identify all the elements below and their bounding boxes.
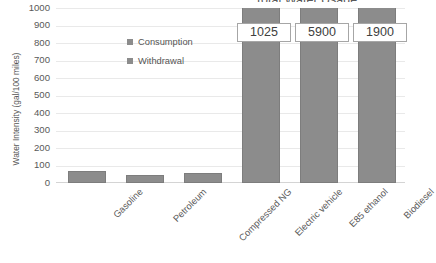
y-tick-label-800: 800 [10,38,50,48]
legend-item-withdrawal[interactable]: Withdrawal [127,55,193,66]
data-label-electric-vehicle: 1025 [237,23,291,42]
gridline-600 [56,78,405,79]
y-tick-label-400: 400 [10,108,50,118]
gridline-700 [56,61,405,62]
y-tick-label-600: 600 [10,73,50,83]
x-label-biodiesel: Biodiesel [401,186,436,221]
y-tick-label-500: 500 [10,90,50,100]
legend-label-consumption: Consumption [138,37,193,47]
x-label-electric-vehicle: Electric vehicle [292,186,344,238]
y-tick-label-0: 0 [10,178,50,188]
gridline-100 [56,166,405,167]
gridline-1000 [56,8,405,9]
legend-item-consumption[interactable]: Consumption [127,36,193,47]
bar-petroleum[interactable] [126,175,164,183]
x-label-e85-ethanol: E85 ethanol [347,186,390,229]
legend-swatch-icon [127,58,133,64]
legend-swatch-icon [127,39,133,45]
y-tick-label-900: 900 [10,20,50,30]
x-axis-line [56,182,405,183]
x-label-compressed-ng: Compressed NG [236,186,293,243]
chart-title: Total Water Usage [216,0,396,2]
data-label-biodiesel: 1900 [353,23,407,42]
x-axis-labels: Gasoline Petroleum Compressed NG Electri… [56,186,405,263]
gridline-500 [56,96,405,97]
x-label-gasoline: Gasoline [111,186,145,220]
y-tick-label-300: 300 [10,125,50,135]
y-tick-label-100: 100 [10,160,50,170]
gridline-300 [56,131,405,132]
y-tick-label-200: 200 [10,143,50,153]
bar-gasoline[interactable] [68,171,106,183]
data-label-e85-ethanol: 5900 [295,23,349,42]
y-tick-label-700: 700 [10,55,50,65]
gridline-400 [56,113,405,114]
legend-label-withdrawal: Withdrawal [138,56,184,66]
bar-compressed-ng[interactable] [184,173,222,184]
gridline-800 [56,43,405,44]
y-tick-label-1000: 1000 [10,3,50,13]
gridline-200 [56,148,405,149]
chart-legend: Consumption Withdrawal [127,36,193,74]
x-label-petroleum: Petroleum [171,186,209,224]
